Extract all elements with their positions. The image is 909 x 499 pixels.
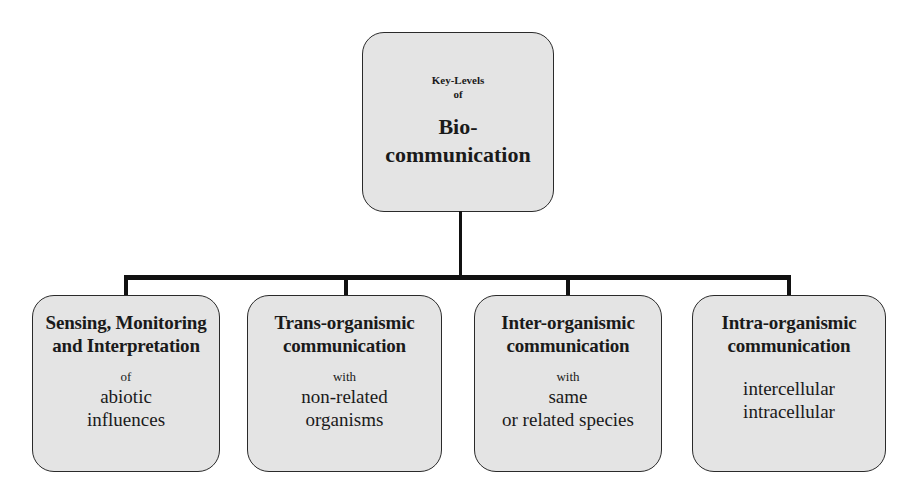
child-detail-line1: same [475,385,661,408]
child-detail-line2: organisms [248,408,441,431]
child-connector-word: with [248,369,441,385]
child-detail-line2: influences [33,408,219,431]
child-title-line2: communication [248,334,441,357]
child-title-line2: and Interpretation [33,334,219,357]
child-node-intra-organismic: Intra-organismic communication intercell… [692,295,886,472]
child-connector-word: with [475,369,661,385]
child-detail-line2: intracellular [693,400,885,423]
child-detail-line1: abiotic [33,385,219,408]
branch-drop-4 [787,275,791,296]
child-title-line2: communication [475,334,661,357]
child-connector-word: of [33,369,219,385]
child-detail-line1: non-related [248,385,441,408]
child-title-line1: Intra-organismic [693,311,885,334]
child-node-inter-organismic: Inter-organismic communication with same… [474,295,662,472]
root-pre-line1: Key-Levels [363,73,553,87]
child-node-trans-organismic: Trans-organismic communication with non-… [247,295,442,472]
child-title-line2: communication [693,334,885,357]
horizontal-branch-line [124,275,791,280]
branch-drop-1 [124,275,128,296]
child-title-line1: Trans-organismic [248,311,441,334]
root-title-line2: communication [363,141,553,169]
branch-drop-2 [344,275,348,296]
branch-drop-3 [566,275,570,296]
child-node-sensing: Sensing, Monitoring and Interpretation o… [32,295,220,472]
child-title-line1: Inter-organismic [475,311,661,334]
root-title-line1: Bio- [363,113,553,141]
child-title-line1: Sensing, Monitoring [33,311,219,334]
root-stem-line [459,211,462,279]
child-detail-line1: intercellular [693,377,885,400]
root-node-box: Key-Levels of Bio- communication [362,32,554,212]
child-detail-line2: or related species [475,408,661,431]
root-pre-line2: of [363,87,553,101]
